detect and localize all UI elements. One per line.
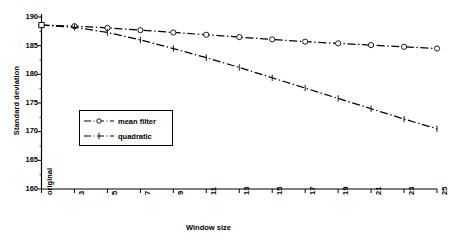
origin-point-marker	[39, 22, 44, 27]
data-point-marker	[434, 46, 439, 51]
x-tick-label-11: 11	[209, 187, 218, 195]
x-tick-label-7: 7	[143, 191, 152, 195]
data-point-marker	[303, 39, 308, 44]
legend-item-quadratic: quadratic	[84, 129, 152, 143]
legend-swatch-quadratic-icon	[84, 131, 114, 141]
legend-swatch-mean-filter-icon	[84, 116, 114, 126]
x-tick-label-original: original	[45, 168, 54, 195]
data-point-marker	[270, 37, 275, 42]
x-tick-label-17: 17	[308, 187, 317, 195]
x-tick-label-25: 25	[440, 187, 449, 195]
x-tick-label-21: 21	[374, 187, 383, 195]
y-tick-label-185: 185	[12, 41, 38, 50]
y-tick-label-160: 160	[12, 184, 38, 193]
data-point-marker	[368, 42, 373, 47]
data-point-marker	[237, 34, 242, 39]
x-tick-label-5: 5	[110, 191, 119, 195]
x-tick-label-3: 3	[77, 191, 86, 195]
y-tick-label-170: 170	[12, 126, 38, 135]
data-point-marker	[171, 30, 176, 35]
data-point-marker	[138, 28, 143, 33]
y-tick-label-180: 180	[12, 69, 38, 78]
x-tick-label-23: 23	[407, 187, 416, 195]
legend-item-mean-filter: mean filter	[84, 114, 156, 128]
x-tick-label-9: 9	[176, 191, 185, 195]
data-point-marker	[204, 32, 209, 37]
y-tick-label-175: 175	[12, 98, 38, 107]
y-tick-label-190: 190	[12, 12, 38, 21]
x-tick-label-13: 13	[242, 187, 251, 195]
x-tick-label-19: 19	[341, 187, 350, 195]
data-point-marker	[401, 44, 406, 49]
x-tick-label-15: 15	[275, 187, 284, 195]
legend-label-mean-filter: mean filter	[118, 117, 156, 126]
y-tick-label-165: 165	[12, 155, 38, 164]
chart-legend: mean filter quadratic	[79, 110, 173, 146]
data-point-marker	[336, 41, 341, 46]
legend-label-quadratic: quadratic	[118, 132, 152, 141]
